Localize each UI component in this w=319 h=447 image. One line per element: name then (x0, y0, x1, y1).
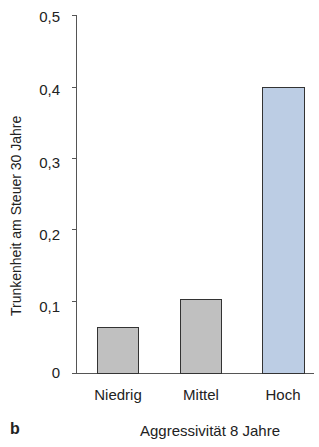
bar-niedrig (97, 327, 139, 374)
panel-label: b (10, 420, 20, 438)
x-tick-label: Mittel (161, 386, 241, 403)
y-axis-title: Trunkenheit am Steuer 30 Jahre (8, 116, 24, 316)
y-tick-label: 0,4 (20, 81, 60, 98)
y-tick (72, 229, 77, 230)
bar-mittel (180, 299, 222, 374)
x-tick-label: Niedrig (78, 386, 158, 403)
x-axis-title: Aggressivität 8 Jahre (100, 422, 319, 439)
y-tick-label: 0 (20, 364, 60, 381)
x-tick-label: Hoch (243, 386, 319, 403)
y-tick-label: 0,1 (20, 298, 60, 315)
y-tick-label: 0,3 (20, 154, 60, 171)
y-tick-label: 0,5 (20, 8, 60, 25)
y-axis (76, 15, 77, 374)
y-tick (72, 373, 77, 374)
y-tick (72, 15, 77, 16)
y-tick (72, 301, 77, 302)
y-tick-label: 0,2 (20, 226, 60, 243)
y-tick (72, 87, 77, 88)
bar-hoch (262, 87, 305, 374)
y-tick (72, 158, 77, 159)
